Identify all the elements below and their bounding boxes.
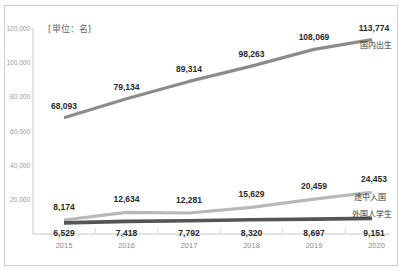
y-tick-label: 120,000: [7, 25, 31, 32]
series-name-label: 外国人学生: [352, 209, 392, 219]
x-tick-label: 2016: [118, 241, 135, 250]
data-label: 9,151: [363, 228, 385, 238]
x-tick-label: 2018: [243, 241, 260, 250]
x-tick-label: 2020: [368, 241, 385, 250]
series-line: [64, 40, 372, 118]
data-label: 24,453: [361, 174, 387, 184]
data-label: 8,697: [303, 228, 325, 238]
data-label: 7,792: [178, 228, 200, 238]
data-label: 7,418: [116, 228, 138, 238]
y-tick-label: 20,000: [10, 196, 30, 203]
y-tick-labels: 20,00040,00060,00080,000100,000120,000: [7, 25, 31, 203]
series-group: 68,09379,13489,31498,263108,069113,774国内…: [51, 23, 392, 238]
y-tick-label: 40,000: [10, 162, 30, 169]
line-chart: 20,00040,00060,00080,000100,000120,000 2…: [0, 0, 401, 271]
unit-label: [単位：名]: [48, 23, 91, 34]
data-label: 68,093: [51, 101, 77, 111]
series-line: [64, 218, 372, 222]
data-label: 12,281: [176, 195, 202, 205]
series-mid-entry: 8,17412,63412,28115,62920,45924,453途中入国: [53, 174, 387, 220]
x-tick-labels: 201520162017201820192020: [56, 228, 385, 250]
data-label: 8,174: [53, 202, 75, 212]
data-label: 89,314: [176, 64, 202, 74]
x-tick-label: 2015: [56, 241, 73, 250]
data-label: 6,529: [53, 228, 75, 238]
data-label: 108,069: [299, 32, 330, 42]
y-tick-label: 100,000: [7, 59, 31, 66]
y-tick-label: 80,000: [10, 93, 30, 100]
x-tick-label: 2017: [181, 241, 198, 250]
data-label: 15,629: [239, 189, 265, 199]
data-label: 98,263: [239, 49, 265, 59]
data-label: 113,774: [359, 23, 390, 33]
series-domestic-born: 68,09379,13489,31498,263108,069113,774国内…: [51, 23, 392, 118]
data-label: 8,320: [241, 228, 263, 238]
series-name-label: 途中入国: [354, 192, 386, 202]
x-tick-label: 2019: [306, 241, 323, 250]
series-line: [64, 192, 372, 220]
data-label: 79,134: [114, 82, 140, 92]
series-name-label: 国内出生: [360, 40, 392, 50]
data-label: 20,459: [301, 181, 327, 191]
y-tick-label: 60,000: [10, 128, 30, 135]
data-label: 12,634: [114, 194, 140, 204]
